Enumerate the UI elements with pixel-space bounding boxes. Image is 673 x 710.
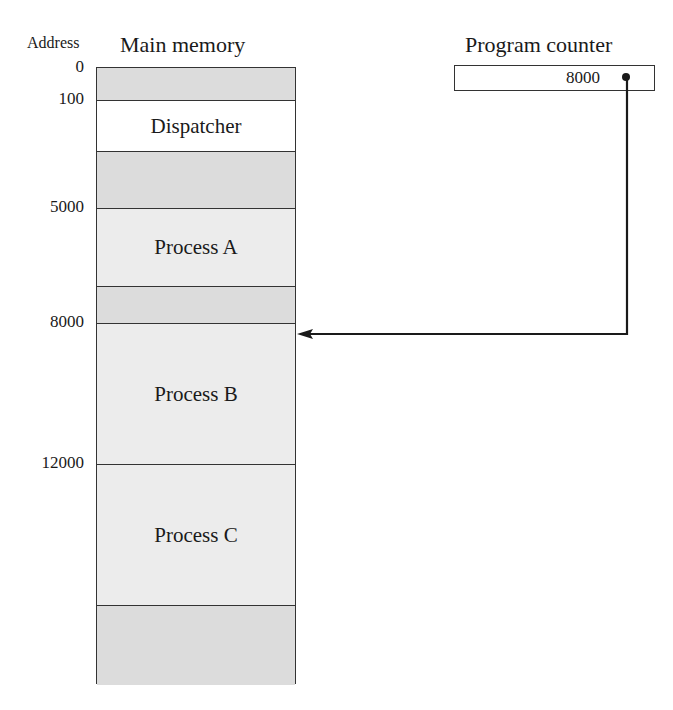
pointer-arrow bbox=[0, 0, 673, 710]
pointer-line bbox=[306, 77, 627, 334]
